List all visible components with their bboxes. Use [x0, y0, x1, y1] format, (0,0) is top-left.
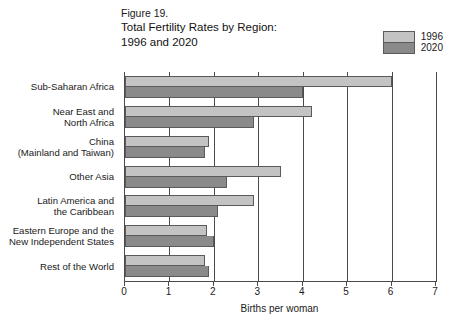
figure-number: Figure 19.: [121, 6, 371, 20]
category-label-line: Latin America and: [37, 195, 114, 206]
x-axis-tick-label: 0: [121, 286, 127, 298]
chart-area: Sub-Saharan AfricaNear East andNorth Afr…: [0, 72, 452, 327]
category-label: Latin America andthe Caribbean: [0, 191, 119, 221]
chart-title-line-1: Total Fertility Rates by Region:: [121, 20, 371, 35]
category-label-line: Other Asia: [69, 171, 114, 182]
bar-1996: [125, 136, 209, 147]
category-label: Near East andNorth Africa: [0, 102, 119, 132]
bar-1996: [125, 166, 281, 177]
x-axis-label: Births per woman: [124, 303, 435, 314]
chart-title-block: Figure 19. Total Fertility Rates by Regi…: [121, 6, 371, 49]
bar-1996: [125, 255, 205, 266]
bar-1996: [125, 106, 312, 117]
bar-2020: [125, 266, 209, 277]
category-label: Other Asia: [0, 162, 119, 192]
category-label: Eastern Europe and theNew Independent St…: [0, 221, 119, 251]
bar-group: [125, 132, 436, 162]
x-axis-tick-label: 4: [299, 286, 305, 298]
category-label-line: Rest of the World: [40, 261, 114, 272]
category-label-line: North Africa: [64, 117, 114, 128]
bar-group: [125, 162, 436, 192]
category-label-line: the Caribbean: [54, 206, 114, 217]
bar-group: [125, 72, 436, 102]
legend-label-2020: 2020: [421, 42, 443, 53]
x-axis-tick-label: 7: [432, 286, 438, 298]
chart-title-line-2: 1996 and 2020: [121, 35, 371, 50]
bar-2020: [125, 206, 218, 217]
bar-2020: [125, 147, 205, 158]
bar-1996: [125, 225, 207, 236]
bar-group: [125, 191, 436, 221]
chart-legend: 1996 2020: [383, 31, 443, 54]
x-axis-tick-label: 2: [210, 286, 216, 298]
bar-2020: [125, 117, 254, 128]
bar-1996: [125, 195, 254, 206]
category-label-line: Eastern Europe and the: [13, 225, 114, 236]
bar-groups: [125, 72, 436, 281]
legend-labels: 1996 2020: [421, 31, 443, 53]
category-label: Sub-Saharan Africa: [0, 72, 119, 102]
bar-2020: [125, 87, 303, 98]
bar-group: [125, 102, 436, 132]
plot-area: [124, 72, 437, 282]
bar-2020: [125, 236, 214, 247]
category-label-line: New Independent States: [9, 236, 114, 247]
bar-group: [125, 251, 436, 281]
legend-label-1996: 1996: [421, 31, 443, 42]
category-label-line: Near East and: [53, 106, 114, 117]
category-label-line: China: [89, 136, 114, 147]
bar-1996: [125, 76, 392, 87]
x-axis-tick-label: 5: [343, 286, 349, 298]
bar-group: [125, 221, 436, 251]
x-axis-tick-label: 3: [255, 286, 261, 298]
x-axis-tick-label: 1: [166, 286, 172, 298]
x-axis-tick-label: 6: [388, 286, 394, 298]
category-axis-labels: Sub-Saharan AfricaNear East andNorth Afr…: [0, 72, 119, 281]
bar-2020: [125, 177, 227, 188]
category-label-line: (Mainland and Taiwan): [18, 147, 114, 158]
x-axis: 01234567: [124, 282, 435, 302]
category-label-line: Sub-Saharan Africa: [31, 81, 114, 92]
legend-swatch-2020: [384, 42, 414, 53]
legend-swatch-1996: [384, 32, 414, 42]
category-label: China(Mainland and Taiwan): [0, 132, 119, 162]
legend-swatches: [383, 31, 415, 54]
category-label: Rest of the World: [0, 251, 119, 281]
